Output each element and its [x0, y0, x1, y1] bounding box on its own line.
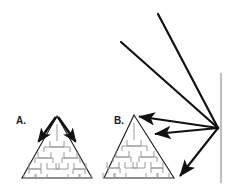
panel-a: A. — [16, 115, 92, 178]
tree-b-box-l1 — [127, 140, 141, 146]
tree-b-box-l4-3 — [146, 173, 157, 178]
tree-a-box-l4-2 — [36, 174, 47, 178]
tree-a-box-l4-3 — [68, 174, 79, 178]
incoming-ray-upper — [158, 14, 218, 128]
tree-b-box-l3-4 — [151, 162, 163, 168]
incoming-ray-lower — [121, 42, 218, 128]
tree-a-box-l1 — [50, 141, 64, 147]
tree-b-box-l2-1 — [116, 151, 129, 157]
tree-a-box-l3-3 — [56, 163, 68, 169]
tree-a-box-l3-2 — [47, 163, 59, 169]
tree-a-box-l3-1 — [29, 163, 41, 169]
tree-a-box-l2-2 — [64, 152, 77, 158]
arrow-to-interior-b — [155, 128, 218, 134]
apex-arrow-left-a — [39, 117, 57, 142]
figure-root: A. — [0, 0, 233, 187]
tree-b-box-l4-4 — [158, 173, 169, 178]
apex-arrow-right-a — [58, 117, 76, 142]
tree-b-box-l2-2 — [141, 151, 154, 157]
tree-b-box-l3-3 — [133, 162, 145, 168]
panel-b-label: B. — [114, 115, 124, 126]
tree-b-box-l4-2 — [115, 173, 126, 178]
tree-a-box-l4-1 — [24, 174, 35, 178]
hierarchy-tree-b — [103, 123, 169, 178]
tree-b-box-l3-2 — [125, 162, 137, 168]
panel-b: B. — [103, 115, 174, 178]
hierarchy-tree-a — [24, 124, 91, 178]
figure-canvas: A. — [0, 0, 233, 187]
arrow-to-lower-right — [180, 128, 218, 176]
convergence-point — [217, 127, 220, 130]
tree-a-box-l4-4 — [80, 174, 91, 178]
tree-a-box-l2-1 — [38, 152, 51, 158]
panel-a-label: A. — [16, 115, 26, 126]
